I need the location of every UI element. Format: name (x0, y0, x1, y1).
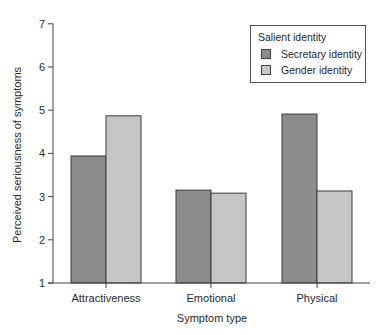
legend-item-gender: Gender identity (261, 64, 352, 76)
x-axis-title: Symptom type (177, 312, 247, 324)
y-tick-label: 1 (39, 277, 45, 289)
bar-emotional-secretary (176, 190, 211, 283)
y-tick-label: 3 (39, 191, 45, 203)
y-tick-label: 6 (39, 61, 45, 73)
y-axis: 1234567 (39, 18, 53, 289)
bar-attractiveness-secretary (71, 156, 106, 283)
legend-item-secretary: Secretary identity (261, 48, 362, 60)
bars (71, 114, 352, 283)
legend-swatch-gender (261, 65, 271, 75)
legend-label-gender: Gender identity (281, 64, 352, 76)
legend-swatch-secretary (261, 49, 271, 59)
y-tick-label: 2 (39, 234, 45, 246)
bar-emotional-gender (211, 193, 246, 283)
x-tick-label: Attractiveness (71, 292, 141, 304)
x-axis: AttractivenessEmotionalPhysical (48, 283, 370, 304)
bar-attractiveness-gender (106, 116, 141, 283)
x-tick-label: Emotional (187, 292, 236, 304)
legend: Salient identity Secretary identity Gend… (250, 25, 366, 83)
bar-physical-secretary (282, 114, 317, 283)
y-tick-label: 5 (39, 104, 45, 116)
y-tick-label: 4 (39, 147, 45, 159)
y-axis-title: Perceived seriousness of symptoms (11, 66, 23, 243)
legend-label-secretary: Secretary identity (281, 48, 362, 60)
x-tick-label: Physical (297, 292, 338, 304)
legend-title: Salient identity (258, 31, 326, 43)
y-tick-label: 7 (39, 18, 45, 30)
bar-physical-gender (317, 191, 352, 283)
